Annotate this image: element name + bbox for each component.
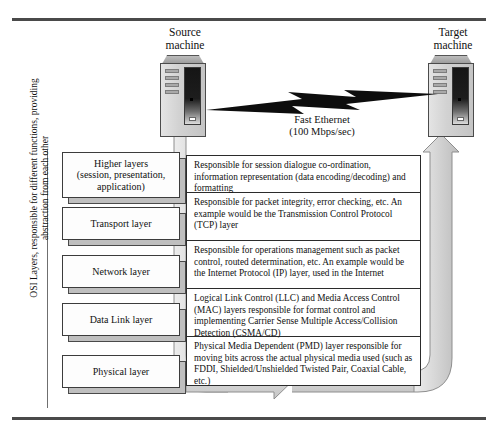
layer-box-higher[interactable]: Higher layers (session, presentation, ap… (62, 152, 180, 198)
layer-description-transport: Responsible for packet integrity, error … (187, 193, 420, 241)
layer-label-line1: Physical layer (93, 366, 149, 378)
layer-label-line1: Higher layers (77, 158, 166, 170)
tower-drive-slots (165, 69, 179, 97)
target-machine-label-line1: Target (408, 26, 496, 39)
layer-description-physical: Physical Media Dependent (PMD) layer res… (187, 337, 420, 385)
layer-box-transport[interactable]: Transport layer (62, 207, 180, 240)
tower-front-panel (452, 67, 469, 125)
layer-description-network: Responsible for operations management su… (187, 241, 420, 289)
layer-box-face: Higher layers (session, presentation, ap… (62, 152, 180, 198)
fast-ethernet-label: Fast Ethernet (100 Mbps/sec) (252, 114, 392, 138)
layer-label-line2: (session, presentation, (77, 169, 166, 181)
layer-description-datalink: Logical Link Control (LLC) and Media Acc… (187, 289, 420, 337)
layer-box-face: Physical layer (62, 355, 180, 388)
layer-box-datalink[interactable]: Data Link layer (62, 303, 180, 336)
source-machine-label-line1: Source (140, 26, 230, 39)
fast-ethernet-label-line2: (100 Mbps/sec) (252, 126, 392, 138)
source-machine-label-line2: machine (140, 39, 230, 52)
diagram-canvas: Source machine Target machine Fast Ether… (0, 0, 496, 432)
target-machine-label-line2: machine (408, 39, 496, 52)
layer-box-face: Data Link layer (62, 303, 180, 336)
source-machine-icon (160, 55, 206, 137)
layer-description-higher: Responsible for session dialogue co-ordi… (187, 156, 420, 193)
tower-front-panel (184, 67, 201, 125)
layer-label-line3: application) (77, 181, 166, 193)
layer-descriptions-panel: Responsible for session dialogue co-ordi… (186, 155, 421, 386)
layer-label-line1: Network layer (92, 266, 149, 278)
layer-box-face: Network layer (62, 255, 180, 288)
fast-ethernet-label-line1: Fast Ethernet (252, 114, 392, 126)
source-machine-label: Source machine (140, 26, 230, 51)
layer-box-physical[interactable]: Physical layer (62, 355, 180, 388)
layer-box-face: Transport layer (62, 207, 180, 240)
target-machine-label: Target machine (408, 26, 496, 51)
layer-box-network[interactable]: Network layer (62, 255, 180, 288)
layer-label-line1: Data Link layer (90, 314, 153, 326)
osi-axis-caption: OSI Layers, responsible for different fu… (29, 68, 51, 308)
layer-label-line1: Transport layer (90, 218, 151, 230)
